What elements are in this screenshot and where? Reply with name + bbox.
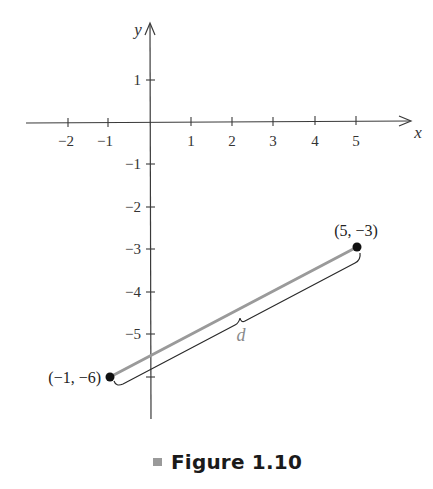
y-axis-label: y [132,20,142,39]
x-axis: x [26,116,422,142]
point-b-label: (5, −3) [334,222,378,240]
x-tick-label: 1 [187,133,195,149]
y-tick-label: −5 [125,326,141,342]
y-tick-label: −1 [125,156,141,172]
distance-label: d [237,325,247,345]
point-a [106,373,115,382]
segment-d [110,247,357,377]
y-tick-label: −3 [125,241,141,257]
x-tick-label: 2 [228,133,236,149]
x-axis-label: x [413,123,422,142]
point-a-label: (−1, −6) [48,369,101,387]
figure-caption: Figure 1.10 [153,447,302,477]
caption-text: Figure 1.10 [171,450,302,474]
x-tick-label: −1 [97,133,113,149]
y-tick-labels: 1 −1 −2 −3 −4 −5 [125,72,141,342]
y-tick-label: −4 [125,284,141,300]
x-tick-label: 3 [269,133,277,149]
x-tick-label: 4 [311,133,319,149]
y-tick-label: −2 [125,199,141,215]
caption-bullet-icon [153,458,162,466]
y-tick-label: 1 [134,72,142,88]
point-b [353,243,362,252]
x-tick-labels: −2 −1 1 2 3 4 5 [58,133,360,149]
x-tick-label: −2 [58,133,74,149]
coordinate-plane-figure: x y −2 −1 1 2 3 4 5 1 −1 −2 −3 [0,0,433,440]
x-tick-label: 5 [352,133,360,149]
